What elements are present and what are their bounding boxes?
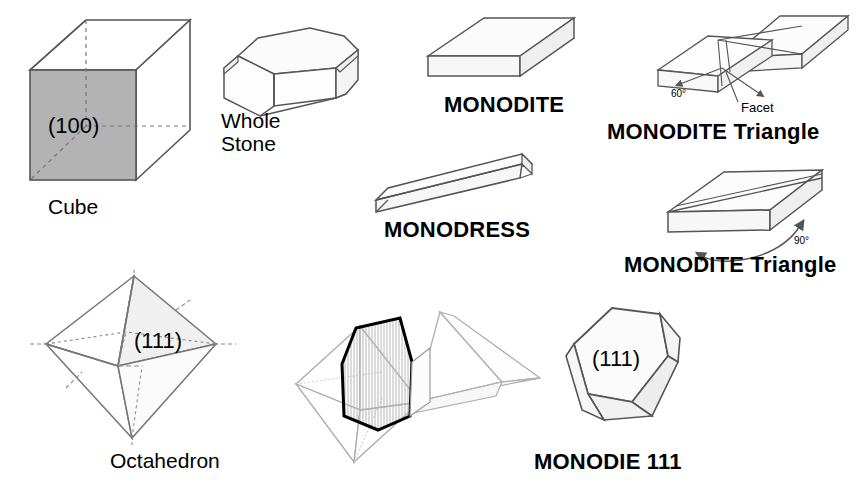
monodie-face-index: (111) bbox=[592, 346, 640, 371]
facet-callout: Facet bbox=[741, 100, 774, 115]
monodite-label: MONODITE bbox=[444, 93, 564, 117]
monodress-label: MONODRESS bbox=[384, 218, 530, 242]
figure-octahedron-pair bbox=[290, 290, 550, 470]
angle-90-annotation: 90° bbox=[794, 235, 809, 246]
cube-face-index: (100) bbox=[48, 113, 99, 138]
figure-cube: (100) bbox=[18, 8, 198, 193]
diagram-canvas: (100) Cube Whole Stone bbox=[0, 0, 863, 495]
whole-stone-label-line1: Whole bbox=[221, 110, 281, 133]
figure-monodress bbox=[372, 150, 542, 220]
monodite-triangle-90-label: MONODITE Triangle bbox=[624, 253, 836, 277]
octahedron-face-index: (111) bbox=[134, 328, 182, 353]
monodite-triangle-60-label: MONODITE Triangle bbox=[607, 120, 819, 144]
figure-monodite bbox=[424, 12, 584, 92]
whole-stone-label-line2: Stone bbox=[221, 133, 281, 156]
figure-monodie-111: (111) bbox=[556, 300, 726, 445]
angle-60-annotation: 60° bbox=[671, 88, 686, 99]
monodie-111-label: MONODIE 111 bbox=[534, 450, 682, 474]
whole-stone-label: Whole Stone bbox=[221, 110, 281, 155]
octahedron-label: Octahedron bbox=[110, 450, 220, 473]
figure-whole-stone bbox=[218, 22, 378, 122]
cube-label: Cube bbox=[48, 196, 98, 219]
figure-octahedron: (111) bbox=[30, 270, 250, 450]
